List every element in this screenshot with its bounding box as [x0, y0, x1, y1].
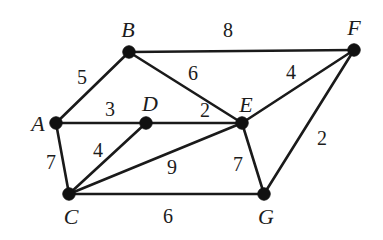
edge-weight-label-f-g: 2 [317, 128, 327, 148]
graph-node-g [258, 188, 270, 200]
edge-weight-label-d-c: 4 [93, 140, 103, 160]
node-label-b: B [121, 19, 134, 41]
graph-diagram-canvas: 537862496472 ABCDEFG [0, 0, 383, 240]
edge-weight-label-a-c: 7 [46, 152, 56, 172]
graph-edge-d-c [69, 123, 146, 194]
graph-node-f [348, 44, 360, 56]
node-label-g: G [258, 206, 274, 228]
graph-edge-b-f [129, 50, 354, 52]
edge-weight-label-c-e: 9 [167, 157, 177, 177]
graph-node-a [50, 117, 62, 129]
node-label-f: F [347, 17, 360, 39]
graph-edge-a-b [56, 52, 129, 123]
graph-node-c [63, 188, 75, 200]
edge-weight-label-e-g: 7 [233, 154, 243, 174]
graph-edge-e-g [242, 123, 264, 194]
edge-weight-label-b-e: 6 [188, 63, 198, 83]
node-label-a: A [31, 113, 44, 135]
edges-group [56, 50, 354, 194]
edge-weight-label-a-d: 3 [105, 99, 115, 119]
node-label-e: E [239, 94, 252, 116]
edge-weight-label-a-b: 5 [77, 67, 87, 87]
edge-weight-label-e-f: 4 [286, 62, 296, 82]
graph-node-b [123, 46, 135, 58]
edge-weight-label-b-f: 8 [223, 20, 233, 40]
node-label-c: C [64, 206, 79, 228]
edge-weight-label-d-e: 2 [200, 100, 210, 120]
graph-svg [0, 0, 383, 240]
graph-edge-e-f [242, 50, 354, 123]
graph-node-e [236, 117, 248, 129]
graph-edge-a-c [56, 123, 69, 194]
edge-weight-label-c-g: 6 [163, 206, 173, 226]
graph-edge-f-g [264, 50, 354, 194]
graph-node-d [140, 117, 152, 129]
node-label-d: D [142, 93, 158, 115]
